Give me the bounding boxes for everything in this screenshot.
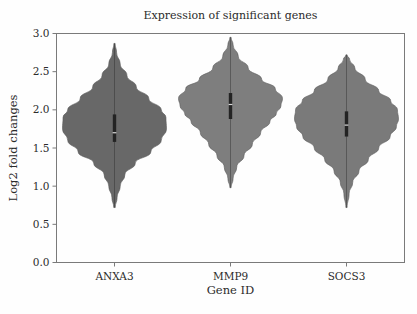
y-axis-tick-label: 3.0: [33, 27, 50, 39]
x-axis-tick-label-mmp9: MMP9: [213, 270, 248, 282]
x-axis-label: Gene ID: [207, 283, 255, 297]
quartile-box-mmp9: [229, 93, 232, 119]
x-axis-tick-label-anxa3: ANXA3: [94, 270, 133, 282]
quartile-box-anxa3: [113, 114, 116, 141]
chart-title: Expression of significant genes: [144, 9, 318, 22]
y-axis-tick-label: 0.5: [33, 218, 50, 230]
violin-mmp9: [179, 37, 283, 187]
violin-socs3: [295, 55, 399, 208]
y-axis-tick-label: 2.5: [33, 65, 50, 77]
y-axis-label: Log2 fold changes: [6, 94, 20, 201]
violin-anxa3: [63, 43, 167, 207]
y-axis-tick-label: 1.5: [33, 142, 50, 154]
violin-plot-figure: 0.00.51.01.52.02.53.0ANXA3MMP9SOCS3Expre…: [0, 0, 417, 314]
y-axis-tick-label: 1.0: [33, 180, 50, 192]
chart-canvas: 0.00.51.01.52.02.53.0ANXA3MMP9SOCS3Expre…: [0, 0, 417, 314]
y-axis-tick-label: 0.0: [33, 256, 50, 268]
quartile-box-socs3: [345, 111, 348, 136]
x-axis-tick-label-socs3: SOCS3: [328, 270, 366, 282]
y-axis-tick-label: 2.0: [33, 103, 50, 115]
